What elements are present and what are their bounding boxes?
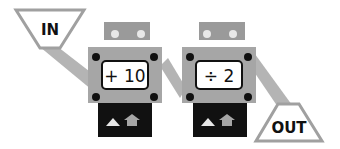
bolt-icon [244,53,252,61]
input-label: IN [41,21,59,39]
output-funnel: OUT [256,104,322,141]
bolt-icon [150,93,158,101]
machine-add-ten: + 10 [88,22,162,137]
output-label: OUT [271,119,307,137]
bolt-icon [150,53,158,61]
indicator-light [111,30,119,38]
indicator-light [203,30,211,38]
indicator-light [229,30,237,38]
bolt-icon [244,93,252,101]
operation-label: ÷ 2 [204,66,234,86]
bolt-icon [92,53,100,61]
input-funnel: IN [16,10,84,48]
machine-divide-two: ÷ 2 [182,22,256,137]
function-machine-diagram: IN + 10 ÷ 2 OUT [0,0,340,149]
operation-label: + 10 [104,66,145,86]
indicator-light [137,30,145,38]
bolt-icon [92,93,100,101]
bolt-icon [186,53,194,61]
bolt-icon [186,93,194,101]
